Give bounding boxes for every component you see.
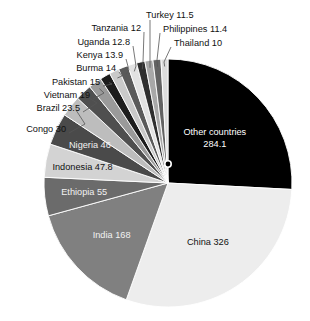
callout-label-brazil: Brazil 23.5	[37, 103, 80, 113]
callout-label-uganda: Uganda 12.8	[77, 37, 130, 47]
slice-label-china: China 326	[187, 237, 229, 247]
callout-label-thailand: Thailand 10	[174, 38, 222, 48]
callout-label-burma: Burma 14	[76, 63, 116, 73]
callout-label-turkey: Turkey 11.5	[146, 10, 194, 20]
callout-label-pakistan: Pakistan 15	[52, 77, 100, 87]
callout-label-kenya: Kenya 13.9	[77, 50, 124, 60]
slice-label-nigeria: Nigeria 46	[69, 140, 111, 150]
pie-slice-other-countries	[168, 59, 292, 189]
callout-label-congo: Congo 30	[26, 124, 66, 134]
pie-chart-figure: Other countries284.1China 326India 168Et…	[0, 0, 310, 321]
callout-label-tanzania: Tanzania 12	[91, 23, 141, 33]
callout-label-vietnam: Vietnam 19	[44, 90, 90, 100]
slice-label-india: India 168	[93, 230, 131, 240]
callout-label-philippines: Philippines 11.4	[163, 24, 227, 34]
slice-label-ethiopia: Ethiopia 55	[61, 187, 107, 197]
slice-label-indonesia: Indonesia 47.8	[52, 162, 112, 172]
pie-chart-svg: Other countries284.1China 326India 168Et…	[0, 0, 310, 321]
boundary-dot-marker	[165, 161, 171, 167]
boundary-dot-icon	[165, 161, 171, 167]
